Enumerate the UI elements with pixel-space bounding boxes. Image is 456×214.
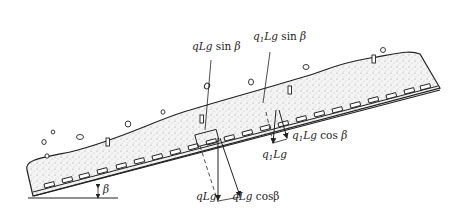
q1Lg-closing xyxy=(273,139,287,143)
label-q1Lg-sin: q1Lg sin β xyxy=(253,30,306,44)
label-qLg: qLg xyxy=(196,190,217,202)
label-qLg-sin: qLg sin β xyxy=(192,40,241,52)
label-qLg-cos: qLg cosβ xyxy=(232,190,279,202)
label-q1Lg-cos: q1Lg cos β xyxy=(292,129,347,143)
beta-label: β xyxy=(102,183,109,195)
qLg-cos-vector xyxy=(220,138,240,196)
conveyor-force-diagram: β qLg sin β q1Lg sin β qLg qLg cosβ q1Lg… xyxy=(0,0,456,214)
label-q1Lg: q1Lg xyxy=(262,148,287,162)
